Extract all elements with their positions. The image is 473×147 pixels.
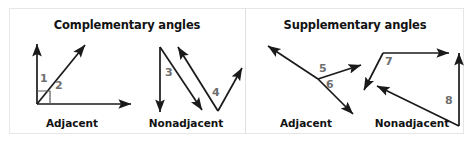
ray-3-down-right — [160, 47, 202, 110]
caption-supplementary-nonadjacent: Nonadjacent — [360, 117, 464, 129]
angle-label-6: 6 — [326, 78, 334, 91]
ray-4-up-right — [218, 68, 242, 111]
panel-supplementary: Supplementary angles 5 6 — [246, 8, 464, 134]
angle-label-3: 3 — [165, 66, 173, 79]
ray-6-down-right — [318, 79, 353, 114]
angle-label-7: 7 — [385, 55, 393, 68]
caption-supplementary-adjacent: Adjacent — [252, 117, 360, 129]
diagram-complementary-nonadjacent: 3 4 — [160, 47, 242, 112]
panel-title-complementary: Complementary angles — [9, 18, 245, 32]
ray-shared-right — [318, 65, 361, 79]
caption-complementary-adjacent: Adjacent — [17, 117, 127, 129]
caption-complementary-nonadjacent: Nonadjacent — [131, 117, 241, 129]
ray-diagonal-up-right — [37, 45, 85, 104]
diagram-supplementary-nonadjacent: 7 8 — [364, 53, 459, 126]
panel-complementary: Complementary angles 1 2 — [9, 8, 245, 134]
angle-label-2: 2 — [55, 79, 63, 92]
right-angle-marker — [37, 91, 50, 104]
angle-label-1: 1 — [40, 72, 48, 85]
angle-label-8: 8 — [445, 94, 453, 107]
ray-5-up-left — [268, 46, 318, 79]
angle-label-4: 4 — [212, 86, 220, 99]
angle-label-5: 5 — [319, 62, 327, 75]
diagram-supplementary-adjacent: 5 6 — [268, 46, 361, 114]
panel-title-supplementary: Supplementary angles — [246, 18, 464, 32]
ray-4-up-left — [178, 47, 218, 111]
angles-figure: Complementary angles 1 2 — [0, 0, 473, 147]
diagram-complementary-adjacent: 1 2 — [37, 44, 131, 104]
ray-7-down-left — [364, 53, 383, 90]
